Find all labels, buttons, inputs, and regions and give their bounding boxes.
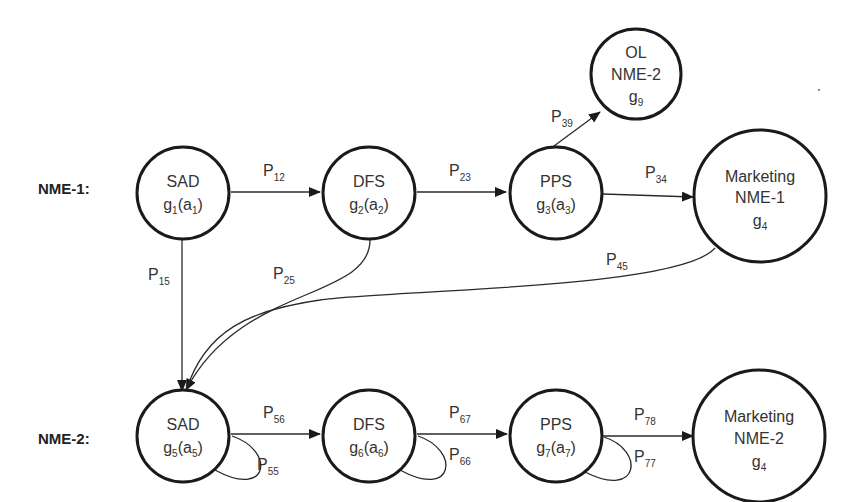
svg-text:DFS: DFS [353, 416, 385, 433]
svg-text:NME-1: NME-1 [735, 189, 785, 206]
svg-text:SAD: SAD [167, 416, 200, 433]
edge-p25 [186, 240, 370, 390]
row-label-nme2: NME-2: [38, 430, 90, 447]
node-ol-nme2: OL NME-2 g9 [591, 29, 681, 119]
label-p15: P15 [148, 266, 170, 287]
label-p25: P25 [273, 265, 295, 286]
node-dfs-nme2: DFS g6(a6) [323, 390, 415, 482]
svg-text:NME-2: NME-2 [734, 430, 784, 447]
svg-text:Marketing: Marketing [725, 168, 795, 185]
node-sad-nme1: SAD g1(a1) [137, 147, 229, 239]
svg-text:DFS: DFS [353, 173, 385, 190]
label-p67: P67 [449, 404, 471, 425]
stray-dot [818, 89, 820, 91]
label-p78: P78 [634, 406, 656, 427]
label-p12: P12 [263, 162, 285, 183]
markov-diagram: NME-1: NME-2: SAD g1(a1) DFS g2(a2) PPS … [0, 0, 864, 502]
label-p34: P34 [645, 164, 667, 185]
svg-text:NME-2: NME-2 [611, 66, 661, 83]
svg-text:PPS: PPS [540, 173, 572, 190]
node-marketing-nme2: Marketing NME-2 g4 [693, 370, 825, 502]
label-p56: P56 [263, 404, 285, 425]
label-p23: P23 [449, 162, 471, 183]
node-pps-nme1: PPS g3(a3) [510, 147, 602, 239]
svg-text:OL: OL [625, 44, 646, 61]
label-p39: P39 [551, 108, 573, 129]
edge-p34 [603, 194, 693, 197]
label-p66: P66 [449, 446, 471, 467]
svg-text:PPS: PPS [540, 416, 572, 433]
node-marketing-nme1: Marketing NME-1 g4 [694, 130, 826, 262]
label-p77: P77 [634, 448, 656, 469]
svg-text:SAD: SAD [167, 173, 200, 190]
node-dfs-nme1: DFS g2(a2) [323, 147, 415, 239]
edge-p45 [186, 248, 715, 391]
svg-text:Marketing: Marketing [724, 408, 794, 425]
row-label-nme1: NME-1: [38, 180, 90, 197]
node-sad-nme2: SAD g5(a5) [137, 390, 229, 482]
label-p55: P55 [257, 456, 279, 477]
node-pps-nme2: PPS g7(a7) [510, 390, 602, 482]
label-p45: P45 [606, 251, 628, 272]
